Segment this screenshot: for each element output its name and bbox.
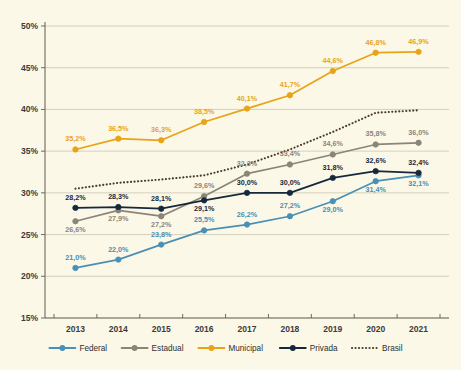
legend-label-brasil: Brasil — [382, 344, 403, 353]
data-point-municipal-2021 — [416, 49, 421, 54]
data-labels-group: 21,0%22,0%23,8%25,5%26,2%27,2%29,0%31,4%… — [65, 37, 429, 262]
data-point-estadual-2021 — [416, 140, 421, 145]
legend-group: FederalEstadualMunicipalPrivadaBrasil — [49, 344, 402, 353]
data-label-privada-2013: 28,2% — [65, 193, 86, 202]
data-point-federal-2016 — [201, 228, 206, 233]
legend-item-estadual[interactable]: Estadual — [122, 344, 184, 353]
data-label-privada-2016: 29,1% — [194, 204, 215, 213]
data-label-privada-2020: 32,6% — [365, 156, 386, 165]
data-point-federal-2019 — [330, 199, 335, 204]
data-label-estadual-2020: 35,8% — [365, 129, 386, 138]
legend-item-privada[interactable]: Privada — [280, 344, 338, 353]
line-chart-container: 15%20%25%30%35%40%45%50% 201320142015201… — [0, 0, 461, 370]
chart-plot-area: 15%20%25%30%35%40%45%50% 201320142015201… — [0, 0, 461, 370]
legend-item-brasil[interactable]: Brasil — [352, 344, 403, 353]
data-point-municipal-2015 — [159, 138, 164, 143]
data-label-estadual-2015: 27,2% — [151, 220, 172, 229]
data-label-federal-2018: 27,2% — [280, 201, 301, 210]
data-label-estadual-2021: 36,0% — [408, 128, 429, 137]
legend-marker-privada — [290, 345, 296, 351]
data-point-federal-2018 — [287, 214, 292, 219]
data-point-municipal-2016 — [201, 119, 206, 124]
data-label-municipal-2014: 36,5% — [108, 124, 129, 133]
x-tick-label-2015: 2015 — [152, 324, 171, 334]
legend-marker-municipal — [209, 345, 215, 351]
data-label-estadual-2019: 34,6% — [323, 139, 344, 148]
data-label-estadual-2017: 32,3% — [237, 159, 258, 168]
y-tick-label: 50% — [21, 21, 38, 31]
data-point-municipal-2018 — [287, 93, 292, 98]
x-tick-label-2021: 2021 — [409, 324, 428, 334]
data-label-municipal-2018: 41,7% — [280, 80, 301, 89]
data-label-estadual-2018: 33,4% — [280, 149, 301, 158]
data-point-federal-2020 — [373, 178, 378, 183]
data-point-municipal-2017 — [244, 106, 249, 111]
data-label-federal-2021: 32,1% — [408, 179, 429, 188]
data-label-privada-2017: 30,0% — [237, 178, 258, 187]
data-point-privada-2020 — [373, 168, 378, 173]
data-label-municipal-2019: 44,6% — [323, 56, 344, 65]
data-label-federal-2016: 25,5% — [194, 215, 215, 224]
data-point-municipal-2014 — [116, 136, 121, 141]
y-tick-label: 40% — [21, 104, 38, 114]
x-tick-label-2018: 2018 — [280, 324, 299, 334]
data-point-federal-2015 — [159, 242, 164, 247]
data-label-federal-2019: 29,0% — [323, 205, 344, 214]
data-label-privada-2019: 31,8% — [323, 163, 344, 172]
y-tick-label: 20% — [21, 271, 38, 281]
data-label-privada-2021: 32,4% — [408, 158, 429, 167]
data-label-estadual-2013: 26,6% — [65, 225, 86, 234]
data-point-estadual-2017 — [244, 171, 249, 176]
legend-marker-federal — [60, 345, 66, 351]
data-label-municipal-2016: 38,5% — [194, 107, 215, 116]
data-label-privada-2014: 28,3% — [108, 192, 129, 201]
legend-label-municipal: Municipal — [228, 344, 263, 353]
data-point-privada-2021 — [416, 170, 421, 175]
x-tick-label-2013: 2013 — [66, 324, 85, 334]
data-point-estadual-2013 — [73, 219, 78, 224]
data-label-federal-2013: 21,0% — [65, 253, 86, 262]
data-point-estadual-2015 — [159, 214, 164, 219]
data-point-privada-2019 — [330, 175, 335, 180]
xtick-labels-group: 201320142015201620172018201920202021 — [66, 324, 428, 334]
data-label-federal-2020: 31,4% — [365, 185, 386, 194]
data-label-privada-2018: 30,0% — [280, 178, 301, 187]
legend-item-federal[interactable]: Federal — [49, 344, 107, 353]
data-label-municipal-2015: 36,3% — [151, 125, 172, 134]
legend-label-estadual: Estadual — [152, 344, 184, 353]
y-tick-label: 15% — [21, 313, 38, 323]
x-tick-label-2020: 2020 — [366, 324, 385, 334]
legend-label-privada: Privada — [310, 344, 338, 353]
data-point-privada-2017 — [244, 190, 249, 195]
y-tick-label: 35% — [21, 146, 38, 156]
ytick-labels-group: 15%20%25%30%35%40%45%50% — [21, 21, 38, 323]
data-label-federal-2014: 22,0% — [108, 245, 129, 254]
x-tick-label-2017: 2017 — [238, 324, 257, 334]
data-label-municipal-2021: 46,9% — [408, 37, 429, 46]
y-tick-label: 25% — [21, 230, 38, 240]
legend-label-federal: Federal — [79, 344, 107, 353]
x-tick-label-2014: 2014 — [109, 324, 128, 334]
data-point-privada-2015 — [159, 206, 164, 211]
data-label-estadual-2014: 27,9% — [108, 214, 129, 223]
data-point-federal-2017 — [244, 222, 249, 227]
data-label-estadual-2016: 29,6% — [194, 181, 215, 190]
y-tick-label: 45% — [21, 63, 38, 73]
data-label-municipal-2020: 46,8% — [365, 38, 386, 47]
data-label-privada-2015: 28,1% — [151, 194, 172, 203]
data-point-municipal-2013 — [73, 147, 78, 152]
data-label-municipal-2017: 40,1% — [237, 94, 258, 103]
legend-marker-estadual — [132, 345, 138, 351]
data-point-privada-2018 — [287, 190, 292, 195]
data-label-municipal-2013: 35,2% — [65, 134, 86, 143]
axes-group — [41, 22, 449, 318]
y-tick-label: 30% — [21, 188, 38, 198]
data-point-estadual-2019 — [330, 152, 335, 157]
data-point-privada-2016 — [201, 198, 206, 203]
data-point-federal-2013 — [73, 265, 78, 270]
data-point-federal-2014 — [116, 257, 121, 262]
data-point-municipal-2020 — [373, 50, 378, 55]
legend-item-municipal[interactable]: Municipal — [198, 344, 263, 353]
x-tick-label-2019: 2019 — [323, 324, 342, 334]
data-point-estadual-2018 — [287, 162, 292, 167]
